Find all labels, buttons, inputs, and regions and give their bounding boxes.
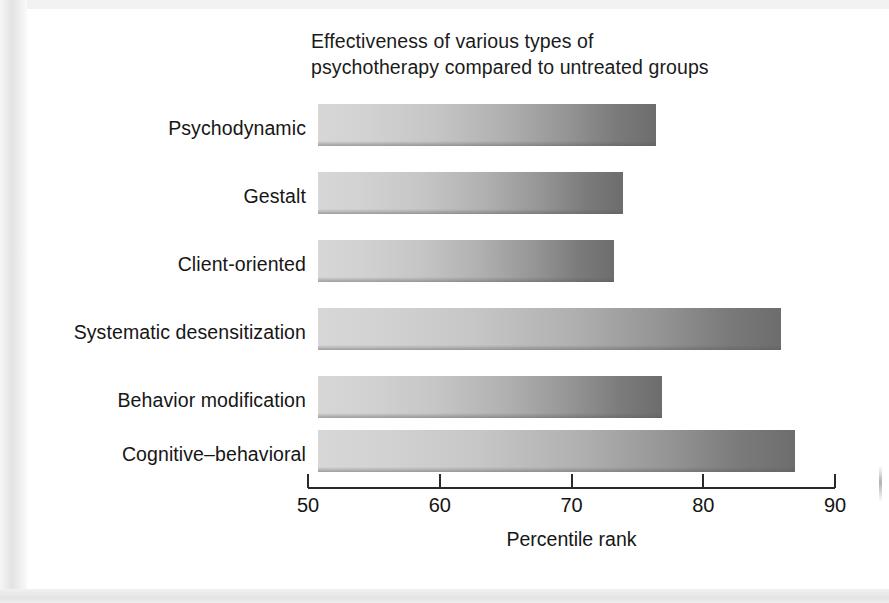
bar-row: Client-oriented — [0, 240, 889, 288]
bar-row: Psychodynamic — [0, 104, 889, 152]
screenshot-root: Effectiveness of various types of psycho… — [0, 0, 889, 603]
chart-title-line-1: Effectiveness of various types of — [311, 28, 731, 54]
bar-row: Systematic desensitization — [0, 308, 889, 356]
bar — [318, 104, 656, 146]
x-tick-label: 80 — [692, 494, 714, 517]
x-tick — [571, 474, 573, 488]
chart-title-line-2: psychotherapy compared to untreated grou… — [311, 54, 731, 80]
bar — [318, 376, 662, 418]
x-tick-label: 60 — [429, 494, 451, 517]
page-edge-smudge — [879, 466, 882, 502]
bar-row: Behavior modification — [0, 376, 889, 424]
bar — [318, 430, 795, 472]
bar-category-label: Psychodynamic — [168, 104, 306, 152]
bar-shadow — [318, 413, 662, 418]
bar-shadow — [318, 209, 623, 214]
bar-chart: Effectiveness of various types of psycho… — [0, 0, 889, 603]
x-tick-label: 70 — [560, 494, 582, 517]
bar-row: Cognitive–behavioral — [0, 430, 889, 478]
x-tick — [702, 474, 704, 488]
x-tick — [834, 474, 836, 488]
x-tick — [439, 474, 441, 488]
bar-shadow — [318, 141, 656, 146]
bar-category-label: Behavior modification — [117, 376, 306, 424]
x-axis-title: Percentile rank — [308, 528, 835, 551]
bar-shadow — [318, 277, 614, 282]
bar-category-label: Client-oriented — [178, 240, 306, 288]
chart-title: Effectiveness of various types of psycho… — [311, 28, 731, 80]
bar — [318, 240, 614, 282]
bar-shadow — [318, 467, 795, 472]
x-tick-label: 90 — [824, 494, 846, 517]
bar — [318, 172, 623, 214]
x-tick — [307, 474, 309, 488]
bar-category-label: Gestalt — [244, 172, 306, 220]
bar-category-label: Systematic desensitization — [74, 308, 306, 356]
bar-shadow — [318, 345, 781, 350]
bar-row: Gestalt — [0, 172, 889, 220]
bar — [318, 308, 781, 350]
x-tick-label: 50 — [297, 494, 319, 517]
bar-category-label: Cognitive–behavioral — [122, 430, 306, 478]
